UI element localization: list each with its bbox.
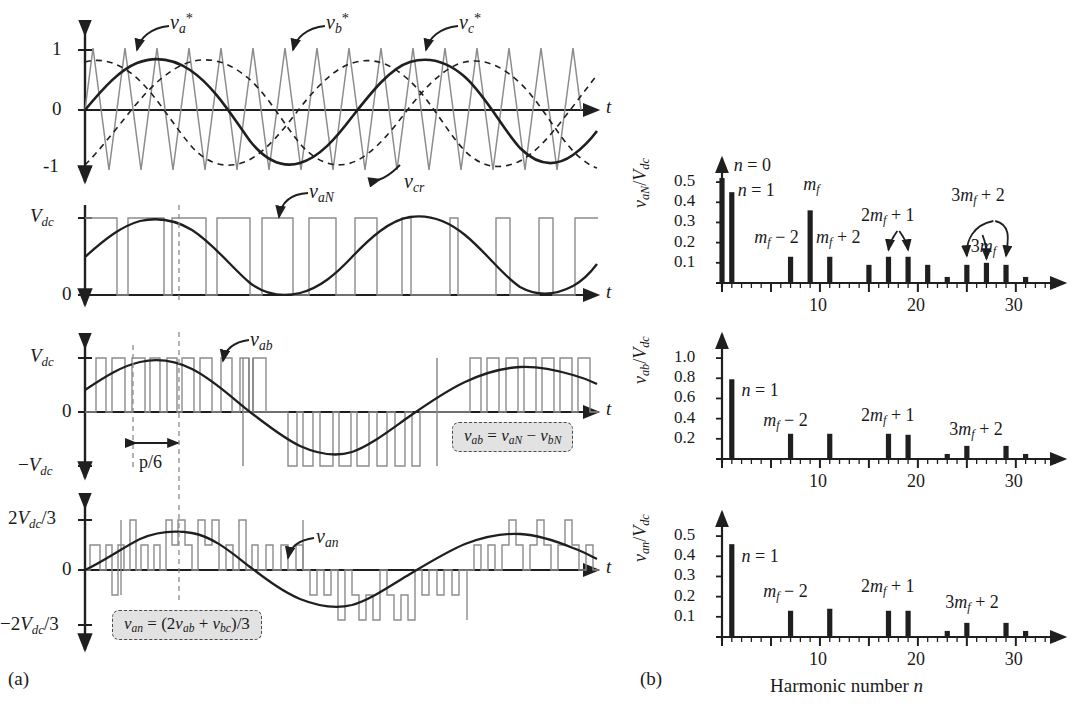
spectrum-van-bar-19: [905, 611, 910, 637]
spectrum-van-bar-25: [964, 623, 969, 637]
spec1-leader-2mf+1-right: [899, 231, 908, 250]
plot-references-carrier: [78, 26, 598, 182]
spectrum-van-bar-17: [886, 611, 891, 637]
plot1-ylabel-0: 0: [52, 98, 62, 120]
spectrum-van-ylabel: van/Vdc: [630, 514, 653, 562]
plot-vaN: [78, 193, 598, 305]
plot2-ylabel-vdc: Vdc: [30, 205, 54, 230]
plot4-ylabel-pos: 2Vdc/3: [8, 507, 56, 532]
plot4-t-label: t: [606, 556, 611, 578]
vaN-fundamental: [85, 216, 597, 295]
spectrum-vab-ytick-label-4: 1.0: [674, 347, 695, 367]
spectrum-vab-bar-7: [788, 434, 793, 459]
plot-vab: [78, 332, 598, 500]
plot2-ylabel-0: 0: [62, 283, 72, 305]
spectrum-vaN-bar-15: [866, 265, 871, 283]
spec3-ann-mf-2: mf − 2: [763, 581, 808, 604]
spectrum-vaN-bar-11: [827, 257, 832, 283]
spectrum-van-xtick-label-1: 20: [907, 649, 925, 670]
label-vab: vab: [250, 328, 272, 354]
spectrum-vab-bar-29: [1003, 446, 1008, 459]
spectrum-vaN-bar-9: [808, 210, 813, 283]
spectrum-van-bar-11: [827, 609, 832, 637]
label-vb-star: vb*: [326, 10, 349, 37]
harmonic-number-axis-label: Harmonic number n: [770, 675, 923, 697]
spectrum-2: [716, 334, 1065, 468]
spec1-ann-n0: n = 0: [734, 155, 771, 176]
spectrum-vaN-ylabel: vaN/Vdc: [630, 158, 653, 208]
spectrum-van-xtick-label-2: 30: [1005, 649, 1023, 670]
label-vc-star: vc*: [459, 10, 481, 37]
spec2-ann-n1: n = 1: [742, 380, 779, 401]
spectrum-vab-bar-17: [886, 434, 891, 459]
spectrum-vaN-bar-27: [984, 263, 989, 283]
spectrum-van-ytick-label-2: 0.3: [674, 565, 695, 585]
spectrum-vaN-bar-31: [1023, 277, 1028, 283]
spectrum-vaN-xtick-label-0: 10: [809, 295, 827, 316]
spectrum-van-bar-1: [729, 544, 734, 637]
plot3-ylabel-negvdc: −Vdc: [18, 454, 53, 479]
van-switched-waveform-3: [467, 520, 598, 570]
label-vaN: vaN: [309, 180, 334, 206]
plot1-ylabel-neg1: -1: [43, 155, 59, 177]
spectrum-vaN-bar-29: [1003, 265, 1008, 283]
spec2-ann-3mf+2: 3mf + 2: [949, 419, 1003, 442]
spectrum-vab-xtick-label-1: 20: [907, 471, 925, 492]
arrow-to-vaN: [279, 193, 308, 217]
spectrum-vab-bar-31: [1023, 454, 1028, 459]
spec2-ann-2mf+1: 2mf + 1: [861, 405, 915, 428]
plot4-ylabel-neg: −2Vdc/3: [0, 613, 59, 638]
spec1-leader-3mf+2-right: [995, 221, 1008, 256]
spectrum-vab-bar-25: [964, 446, 969, 459]
spectrum-vaN-bar-0: [719, 178, 724, 283]
spec1-ann-mf: mf: [803, 174, 819, 197]
spectrum-van-xtick-label-0: 10: [809, 649, 827, 670]
label-vcr: vcr: [404, 170, 424, 196]
spectrum-vab-ytick-label-1: 0.4: [674, 408, 695, 428]
spectrum-vab-ytick-label-2: 0.6: [674, 387, 695, 407]
spectrum-van-bar-23: [945, 631, 950, 637]
spectrum-van-bar-31: [1023, 631, 1028, 637]
spec1-ann-3mf+2: 3mf + 2: [951, 185, 1005, 208]
spec1-ann-2mf+1: 2mf + 1: [861, 205, 915, 228]
arrow-to-va: [137, 26, 169, 50]
spectrum-vaN-bar-19: [905, 257, 910, 283]
spec3-ann-2mf+1: 2mf + 1: [861, 576, 915, 599]
vab-switched-waveform: [85, 358, 249, 412]
spectrum-vaN-bar-1: [729, 192, 734, 283]
spec1-ann-mf+2: mf + 2: [816, 227, 861, 250]
spectrum-vab-xtick-label-0: 10: [809, 471, 827, 492]
spectrum-van-ytick-label-4: 0.5: [674, 525, 695, 545]
spec1-ann-n1: n = 1: [738, 180, 775, 201]
spectrum-vaN-ytick-label-2: 0.3: [674, 211, 695, 231]
label-va-star: va*: [170, 10, 193, 37]
plot1-t-label: t: [606, 96, 611, 118]
spectrum-vaN-xtick-label-1: 20: [907, 295, 925, 316]
spectrum-van-ytick-label-0: 0.1: [674, 606, 695, 626]
spec2-ann-mf-2: mf − 2: [763, 410, 808, 433]
van-switched-waveform: [85, 520, 303, 595]
plot3-ylabel-0: 0: [62, 400, 72, 422]
spectrum-vab-xtick-label-2: 30: [1005, 471, 1023, 492]
spectrum-van-bar-7: [788, 611, 793, 637]
spec1-ann-mf-2: mf − 2: [754, 227, 799, 250]
spectrum-vaN-bar-17: [886, 257, 891, 283]
spectrum-van-ytick-label-1: 0.2: [674, 586, 695, 606]
arrow-to-van: [288, 538, 314, 558]
spec3-ann-n1: n = 1: [742, 546, 779, 567]
van-switched-waveform-2: [303, 570, 467, 620]
spec1-leader-2mf+1-left: [889, 231, 898, 250]
panel-a-letter: (a): [8, 668, 29, 690]
spectrum-vaN-ytick-label-0: 0.1: [674, 252, 695, 272]
spectrum-vaN-bar-23: [945, 277, 950, 283]
spectrum-vab-ytick-label-3: 0.8: [674, 367, 695, 387]
plot3-ylabel-vdc: Vdc: [30, 345, 54, 370]
vaN-switched-waveform: [85, 218, 598, 295]
plot2-t-label: t: [606, 281, 611, 303]
figure-root: 1 0 -1 va* vb* vc* vcr t Vdc 0 vaN t Vdc…: [0, 0, 1084, 722]
spectrum-vab-bar-1: [729, 379, 734, 459]
spectrum-vab-ytick-label-0: 0.2: [674, 428, 695, 448]
spectrum-van-ytick-label-3: 0.4: [674, 545, 695, 565]
spectrum-vab-ylabel: vab/Vdc: [630, 336, 653, 384]
spectrum-vaN-bar-7: [788, 257, 793, 283]
